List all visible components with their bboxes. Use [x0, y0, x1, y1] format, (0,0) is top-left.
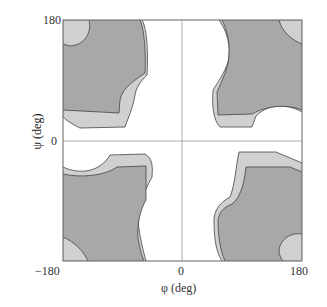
x-tick-neg180: −180	[35, 264, 60, 279]
ramachandran-plot	[0, 0, 327, 307]
y-axis-label: ψ (deg)	[30, 97, 45, 167]
x-tick-0: 0	[178, 264, 184, 279]
y-tick-0: 0	[51, 134, 57, 149]
y-tick-180: 180	[43, 13, 61, 28]
x-tick-180: 180	[290, 264, 308, 279]
x-axis-label: φ (deg)	[161, 281, 196, 296]
